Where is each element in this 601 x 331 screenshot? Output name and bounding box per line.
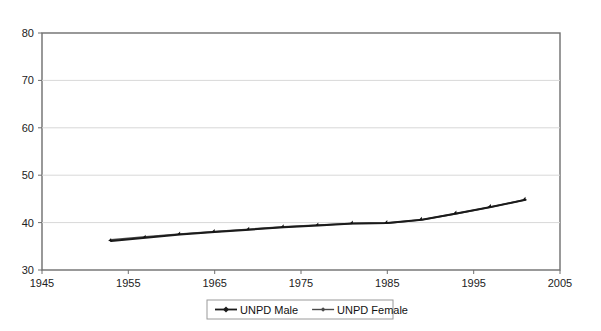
- y-axis-label-30: 30: [22, 264, 34, 276]
- x-axis-label-1965: 1965: [202, 277, 226, 289]
- x-axis-label-1955: 1955: [116, 277, 140, 289]
- line-chart: 304050607080 194519551965197519851995200…: [0, 0, 601, 331]
- chart-container: 304050607080 194519551965197519851995200…: [0, 0, 601, 331]
- y-axis-label-50: 50: [22, 169, 34, 181]
- y-axis-label-60: 60: [22, 122, 34, 134]
- legend-label-unpd-male: UNPD Male: [240, 304, 298, 316]
- x-axis-label-1975: 1975: [289, 277, 313, 289]
- x-axis-label-1945: 1945: [30, 277, 54, 289]
- x-axis-label-2005: 2005: [548, 277, 572, 289]
- legend-label-unpd-female: UNPD Female: [337, 304, 408, 316]
- y-axis-label-70: 70: [22, 74, 34, 86]
- x-axis-label-1995: 1995: [461, 277, 485, 289]
- plot-area-frame: [42, 33, 560, 270]
- chart-legend: UNPD MaleUNPD Female: [207, 300, 408, 319]
- y-axis-label-40: 40: [22, 217, 34, 229]
- x-axis-label-1985: 1985: [375, 277, 399, 289]
- y-axis-label-80: 80: [22, 27, 34, 39]
